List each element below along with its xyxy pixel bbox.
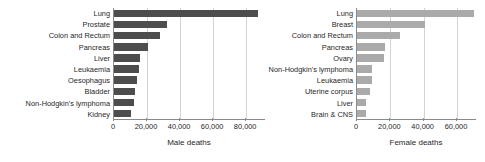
category-label: Bladder (0, 86, 113, 97)
category-label: Brain & CNS (243, 109, 356, 120)
bar (114, 43, 148, 50)
bar (114, 65, 139, 72)
bar-series-female (357, 8, 476, 119)
tick-label: 0 (354, 121, 358, 133)
tick-label: 60,000 (445, 121, 468, 133)
category-axis-female: LungBreastColon and RectumPancreasOvaryN… (243, 8, 356, 120)
bar (114, 88, 135, 95)
bar (114, 99, 134, 106)
plot-area-female (356, 8, 476, 120)
x-axis-title-female: Female deaths (356, 138, 476, 147)
bar (114, 76, 137, 83)
category-label: Pancreas (243, 42, 356, 53)
tick-label: 20,000 (135, 121, 158, 133)
category-label: Oesophagus (0, 75, 113, 86)
bar-row (357, 97, 476, 108)
bar (357, 54, 384, 61)
bar (357, 21, 425, 28)
tick-label: 40,000 (168, 121, 191, 133)
bar (357, 32, 400, 39)
bar (357, 88, 370, 95)
bar-row (357, 86, 476, 97)
bar-row (357, 41, 476, 52)
bar (114, 21, 167, 28)
bar (357, 110, 366, 117)
category-label: Uterine corpus (243, 86, 356, 97)
category-label: Breast (243, 19, 356, 30)
bar-row (357, 108, 476, 119)
bar-row (357, 63, 476, 74)
bar (357, 99, 366, 106)
category-label: Lung (243, 8, 356, 19)
bar (357, 65, 372, 72)
category-label: Pancreas (0, 42, 113, 53)
tick-label: 0 (111, 121, 115, 133)
category-label: Liver (243, 98, 356, 109)
tick-label: 20,000 (378, 121, 401, 133)
bar-row (357, 19, 476, 30)
tick-label: 40,000 (411, 121, 434, 133)
bar-row (357, 8, 476, 19)
bar (357, 10, 474, 17)
category-label: Kidney (0, 109, 113, 120)
category-axis-male: LungProstateColon and RectumPancreasLive… (0, 8, 113, 120)
bar (357, 43, 385, 50)
category-label: Ovary (243, 53, 356, 64)
category-label: Leukaemia (0, 64, 113, 75)
bar (114, 10, 258, 17)
bar (357, 76, 372, 83)
category-label: Leukaemia (243, 75, 356, 86)
bar-row (357, 75, 476, 86)
bar (114, 32, 160, 39)
category-label: Lung (0, 8, 113, 19)
category-label: Non-Hodgkin's lymphoma (0, 98, 113, 109)
category-label: Colon and Rectum (0, 30, 113, 41)
category-label: Colon and Rectum (243, 30, 356, 41)
category-label: Non-Hodgkin's lymphoma (243, 64, 356, 75)
tick-label: 60,000 (201, 121, 224, 133)
x-axis-ticks-female: 020,00040,00060,000 (356, 121, 476, 133)
bar (114, 54, 140, 61)
category-label: Prostate (0, 19, 113, 30)
bar-row (357, 52, 476, 63)
figure-two-panel-bar-chart: LungProstateColon and RectumPancreasLive… (0, 0, 485, 162)
bar (114, 110, 131, 117)
category-label: Liver (0, 53, 113, 64)
bar-row (357, 30, 476, 41)
